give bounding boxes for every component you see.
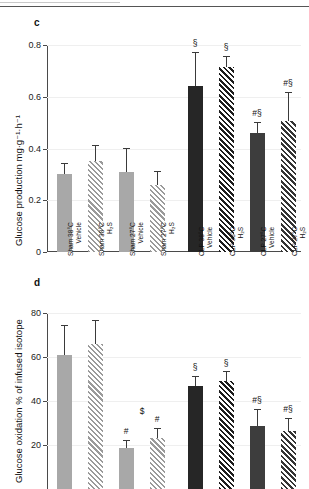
y-axis-tick-label: 0.8 xyxy=(28,41,41,50)
error-bar-cap xyxy=(285,418,292,419)
significance-marker: #§ xyxy=(252,109,261,118)
x-tick-label-line: H₂S xyxy=(299,227,307,256)
error-bar-cap xyxy=(223,56,230,57)
x-tick-label-line: CLP 38°C xyxy=(198,227,206,256)
y-axis-tick-label: 0.4 xyxy=(28,144,41,153)
x-tick-label-line: Sham 38°C xyxy=(98,222,106,256)
y-axis-tick xyxy=(43,252,47,253)
bar xyxy=(219,67,234,252)
error-bar-cap xyxy=(61,163,68,164)
x-tick-label-line: Vehicle xyxy=(206,227,214,256)
y-axis-tick xyxy=(43,45,47,46)
bar-fill xyxy=(219,67,234,252)
panel-c-letter: c xyxy=(34,18,40,28)
error-bar xyxy=(126,149,127,172)
x-tick-label-line: Vehicle xyxy=(268,227,276,256)
bar xyxy=(88,344,103,489)
x-tick-label-line: Vehicle xyxy=(75,222,83,256)
x-tick-label-line: H₂S xyxy=(237,227,245,256)
x-tick-label: Sham 27°CVehicle xyxy=(129,222,145,256)
x-tick-label-line: Sham 27°C xyxy=(129,222,137,256)
bar xyxy=(219,381,234,489)
error-bar-cap xyxy=(192,52,199,53)
error-bar-cap xyxy=(92,145,99,146)
error-bar xyxy=(126,441,127,449)
panel-c: c Glucose production mg·g⁻¹·h⁻¹ 00.20.40… xyxy=(0,14,309,304)
error-bar-cap xyxy=(123,440,130,441)
error-bar-cap xyxy=(92,320,99,321)
error-bar-cap xyxy=(61,325,68,326)
bar-fill xyxy=(188,386,203,489)
bar-fill xyxy=(88,344,103,489)
significance-marker: § xyxy=(224,43,229,52)
x-tick-label: CLP 38°CVehicle xyxy=(198,227,214,256)
panel-c-y-axis-label: Glucose production mg·g⁻¹·h⁻¹ xyxy=(14,115,24,246)
y-axis-tick-label: 80 xyxy=(31,309,41,318)
x-tick-label-line: Sham 38°C xyxy=(67,222,75,256)
y-axis-tick-label: 40 xyxy=(31,397,41,406)
error-bar-cap xyxy=(254,409,261,410)
significance-marker-extra: $ xyxy=(140,407,145,416)
x-tick-label: CLP 27°CH₂S xyxy=(291,227,307,256)
significance-marker: § xyxy=(193,363,198,372)
bar xyxy=(119,448,134,489)
panel-d-plot-area: 20406080##§§#§#§$ xyxy=(47,313,301,489)
error-bar-cap xyxy=(254,122,261,123)
bar-fill xyxy=(281,431,296,489)
panel-c-plot-area: 00.20.40.60.8§§#§#§ xyxy=(47,45,301,252)
y-axis-tick xyxy=(43,200,47,201)
y-axis-tick-label: 0.6 xyxy=(28,92,41,101)
error-bar xyxy=(288,93,289,121)
bar-fill xyxy=(219,381,234,489)
error-bar xyxy=(95,146,96,162)
error-bar xyxy=(64,164,65,174)
x-tick-label-line: CLP 27°C xyxy=(260,227,268,256)
significance-marker: #§ xyxy=(252,396,261,405)
error-bar xyxy=(288,419,289,431)
y-axis-tick-label: 20 xyxy=(31,441,41,450)
bar-fill xyxy=(119,448,134,489)
significance-marker: § xyxy=(193,39,198,48)
page-top-rule xyxy=(0,6,309,7)
gridline xyxy=(47,97,301,98)
x-tick-label-line: CLP 27°C xyxy=(291,227,299,256)
error-bar-cap xyxy=(123,148,130,149)
error-bar xyxy=(257,410,258,427)
error-bar xyxy=(257,123,258,133)
gridline xyxy=(47,45,301,46)
error-bar xyxy=(195,377,196,386)
x-tick-label-line: H₂S xyxy=(168,222,176,256)
error-bar xyxy=(226,372,227,381)
panel-d: d Glucose oxidation % of infused isotope… xyxy=(0,278,309,489)
error-bar-cap xyxy=(192,376,199,377)
significance-marker: § xyxy=(224,359,229,368)
y-axis-tick-label: 0.2 xyxy=(28,196,41,205)
bar-fill xyxy=(57,355,72,489)
y-axis-tick xyxy=(43,401,47,402)
error-bar-cap xyxy=(223,371,230,372)
error-bar xyxy=(157,172,158,185)
y-axis-tick xyxy=(43,313,47,314)
error-bar-cap xyxy=(154,171,161,172)
significance-marker: # xyxy=(124,427,129,436)
bar-fill xyxy=(250,426,265,489)
error-bar-cap xyxy=(285,92,292,93)
x-tick-label: CLP 27°CVehicle xyxy=(260,227,276,256)
x-tick-label-line: Sham 27°C xyxy=(160,222,168,256)
y-axis-tick xyxy=(43,445,47,446)
significance-marker: #§ xyxy=(283,79,292,88)
x-tick-label: Sham 27°CH₂S xyxy=(160,222,176,256)
error-bar xyxy=(157,429,158,439)
bar xyxy=(57,355,72,489)
x-tick-label: Sham 38°CVehicle xyxy=(67,222,83,256)
error-bar xyxy=(64,326,65,355)
error-bar xyxy=(195,53,196,87)
figure-page: c Glucose production mg·g⁻¹·h⁻¹ 00.20.40… xyxy=(0,0,309,489)
panel-d-y-axis-label: Glucose oxidation % of infused isotope xyxy=(14,319,24,483)
gridline xyxy=(47,313,301,314)
y-axis-tick-label: 0 xyxy=(36,248,41,257)
gridline xyxy=(47,357,301,358)
y-axis-tick xyxy=(43,357,47,358)
error-bar xyxy=(95,321,96,344)
x-tick-label: Sham 38°CH₂S xyxy=(98,222,114,256)
